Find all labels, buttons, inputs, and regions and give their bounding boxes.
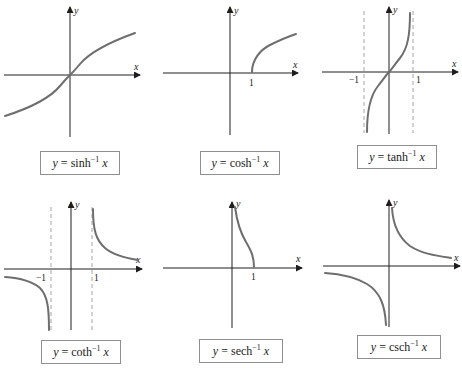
caption-fn: sinh xyxy=(71,156,91,170)
tick-1: 1 xyxy=(94,273,99,283)
caption-eq: = xyxy=(218,344,231,358)
graph-coth-inverse: y x −1 1 xyxy=(4,199,142,333)
x-axis-label: x xyxy=(133,61,139,72)
caption-arg: x xyxy=(422,340,427,354)
y-axis-label: y xyxy=(392,4,398,15)
caption-exp: −1 xyxy=(408,149,417,158)
tick-1: 1 xyxy=(249,78,254,88)
y-axis-label: y xyxy=(73,5,79,16)
x-axis-label: x xyxy=(295,253,301,264)
caption-sech-inverse: y = sech−1 x xyxy=(199,339,283,363)
graph-csch-inverse: y x xyxy=(323,197,460,327)
caption-fn: tanh xyxy=(387,150,408,164)
caption-fn: csch xyxy=(389,340,410,354)
caption-cosh-inverse: y = cosh−1 x xyxy=(200,151,280,175)
caption-tanh-inverse: y = tanh−1 x xyxy=(357,145,437,169)
caption-eq: = xyxy=(217,156,230,170)
sech-inverse-curve xyxy=(235,207,254,267)
tick-1: 1 xyxy=(251,272,256,282)
graph-cosh-inverse: y x 1 xyxy=(163,5,298,135)
inverse-hyperbolic-graphs: y x y x 1 y x −1 1 y x −1 1 xyxy=(0,0,462,370)
caption-eq: = xyxy=(58,156,71,170)
x-axis-label: x xyxy=(451,58,457,69)
csch-inverse-curve-left xyxy=(325,273,386,325)
coth-inverse-curve-left xyxy=(5,277,49,330)
y-axis-label: y xyxy=(392,197,398,208)
caption-csch-inverse: y = csch−1 x xyxy=(357,335,441,359)
tick-1: 1 xyxy=(416,75,421,85)
caption-eq: = xyxy=(375,150,388,164)
caption-eq: = xyxy=(59,345,72,359)
caption-coth-inverse: y = coth−1 x xyxy=(41,340,121,364)
caption-arg: x xyxy=(103,345,108,359)
caption-exp: −1 xyxy=(252,155,261,164)
tick-neg1: −1 xyxy=(349,75,359,85)
caption-exp: −1 xyxy=(410,339,419,348)
caption-fn: sech xyxy=(231,344,252,358)
x-axis-label: x xyxy=(453,252,459,263)
caption-fn: coth xyxy=(71,345,92,359)
cosh-inverse-curve xyxy=(252,34,296,72)
x-axis-label: x xyxy=(292,59,298,70)
caption-fn: cosh xyxy=(230,156,252,170)
csch-inverse-curve-right xyxy=(392,208,451,258)
y-axis-label: y xyxy=(233,5,239,16)
caption-exp: −1 xyxy=(91,155,100,164)
graph-tanh-inverse: y x −1 1 xyxy=(322,4,458,134)
caption-arg: x xyxy=(102,156,107,170)
caption-arg: x xyxy=(264,344,269,358)
coth-inverse-curve-right xyxy=(93,209,138,260)
y-axis-label: y xyxy=(74,199,80,210)
caption-sinh-inverse: y = sinh−1 x xyxy=(40,151,120,175)
caption-eq: = xyxy=(376,340,389,354)
caption-arg: x xyxy=(263,156,268,170)
graph-sech-inverse: y x 1 xyxy=(163,198,302,328)
caption-exp: −1 xyxy=(252,343,261,352)
caption-exp: −1 xyxy=(92,344,101,353)
tick-neg1: −1 xyxy=(36,273,46,283)
caption-arg: x xyxy=(419,150,424,164)
graph-sinh-inverse: y x xyxy=(4,5,140,137)
